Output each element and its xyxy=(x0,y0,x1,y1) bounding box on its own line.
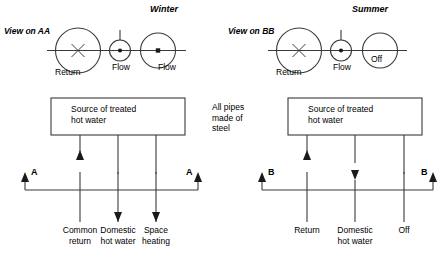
winter-valve-label-middle: Flow xyxy=(112,62,130,73)
winter-arrow-3-down xyxy=(152,212,160,222)
pipe-material-note: All pipes made of steel xyxy=(212,102,272,134)
summer-section-letter-left: B xyxy=(268,167,275,178)
summer-valve-label-middle: Flow xyxy=(333,62,351,73)
summer-pipe-label-3: Off xyxy=(382,225,426,236)
summer-source-box-label: Source of treated hot water xyxy=(308,104,408,125)
winter-valve-label-return: Return xyxy=(55,67,81,78)
flow-arrowheads xyxy=(21,150,437,222)
summer-pipe-label-2: Domestic hot water xyxy=(323,225,387,246)
summer-section-letter-right: B xyxy=(421,167,428,178)
winter-valve-middle-dot xyxy=(118,48,122,52)
summer-header-arrow-left xyxy=(258,172,266,182)
winter-arrow-1-up xyxy=(76,150,84,160)
winter-section-letter-right: A xyxy=(186,167,193,178)
winter-header-arrow-left xyxy=(21,172,29,182)
summer-arrow-2-down xyxy=(351,170,359,180)
summer-panel-title: Summer xyxy=(352,4,388,15)
winter-valve-right-dot xyxy=(156,48,160,52)
winter-pipe-label-3: Space heating xyxy=(129,225,183,246)
summer-header-arrow-right xyxy=(429,172,437,182)
winter-panel-title: Winter xyxy=(150,4,178,15)
winter-source-box-label: Source of treated hot water xyxy=(71,104,171,125)
summer-valve-label-right: Off xyxy=(371,54,382,65)
technical-diagram: Winter Summer View on AA View on BB Retu… xyxy=(0,0,441,253)
summer-arrow-1-up xyxy=(303,150,311,160)
winter-valve-label-right: Flow xyxy=(158,62,176,73)
winter-view-label: View on AA xyxy=(4,26,50,37)
winter-header-arrow-right xyxy=(194,172,202,182)
winter-section-letter-left: A xyxy=(31,167,38,178)
summer-valve-label-return: Return xyxy=(276,67,302,78)
summer-view-label: View on BB xyxy=(228,26,274,37)
winter-arrow-2-down xyxy=(114,212,122,222)
summer-valve-middle-dot xyxy=(339,48,343,52)
